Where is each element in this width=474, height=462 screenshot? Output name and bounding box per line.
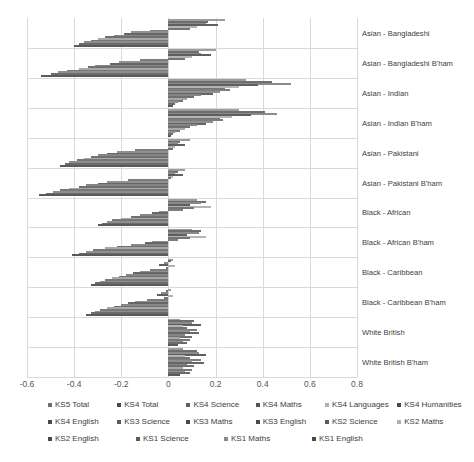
category-group xyxy=(27,227,357,257)
bar xyxy=(168,344,177,346)
legend-swatch-icon xyxy=(117,403,121,407)
x-axis-tick-label: 0 xyxy=(166,379,171,389)
x-axis-tick-label: -0.2 xyxy=(114,379,129,389)
legend-swatch-icon xyxy=(48,420,52,424)
chart-container: -0.6-0.4-0.200.20.40.60.8 Asian - Bangla… xyxy=(0,0,474,462)
category-label: Black - Caribbean B'ham xyxy=(362,298,446,307)
category-axis-labels: Asian - BangladeshiAsian - Bangladeshi B… xyxy=(362,18,474,377)
legend-label: KS4 English xyxy=(55,417,99,426)
bar xyxy=(41,75,168,77)
legend-item[interactable]: KS5 Total xyxy=(48,400,117,409)
category-label: Asian - Indian xyxy=(362,88,408,97)
legend-row: KS4 EnglishKS3 ScienceKS3 MathsKS3 Engli… xyxy=(48,413,468,430)
legend-swatch-icon xyxy=(256,403,260,407)
x-axis: -0.6-0.4-0.200.20.40.60.8 xyxy=(27,379,357,393)
legend-swatch-icon xyxy=(325,403,329,407)
x-axis-tick-label: -0.6 xyxy=(20,379,35,389)
category-label: Asian - Pakistani B'ham xyxy=(362,178,442,187)
plot-area xyxy=(27,18,357,377)
legend-label: KS5 Total xyxy=(55,400,89,409)
legend-label: KS4 Languages xyxy=(332,400,389,409)
category-label: Asian - Pakistani xyxy=(362,148,419,157)
bar xyxy=(168,374,180,376)
x-axis-tick-label: 0.2 xyxy=(210,379,222,389)
category-label: Asian - Indian B'ham xyxy=(362,118,432,127)
legend-item[interactable]: KS2 Science xyxy=(325,417,397,426)
bar xyxy=(74,45,168,47)
bar xyxy=(98,224,169,226)
category-group xyxy=(27,18,357,48)
legend-swatch-icon xyxy=(256,420,260,424)
category-group xyxy=(27,48,357,78)
legend-swatch-icon xyxy=(186,420,190,424)
bar xyxy=(168,265,175,267)
bar xyxy=(168,209,182,211)
legend-row: KS2 EnglishKS1 ScienceKS1 MathsKS1 Engli… xyxy=(48,430,468,447)
category-group xyxy=(27,287,357,317)
category-label: Black - African B'ham xyxy=(362,238,434,247)
legend-item[interactable]: KS2 Maths xyxy=(397,417,468,426)
bar xyxy=(168,105,173,107)
category-label: Asian - Bangladeshi B'ham xyxy=(362,58,453,67)
category-group xyxy=(27,78,357,108)
x-axis-tick-label: 0.4 xyxy=(257,379,269,389)
bar xyxy=(168,58,185,60)
legend-item[interactable]: KS4 Maths xyxy=(256,400,325,409)
legend-swatch-icon xyxy=(224,437,228,441)
legend-item[interactable]: KS1 Maths xyxy=(224,434,312,443)
category-group xyxy=(27,347,357,377)
chart-legend: KS5 TotalKS4 TotalKS4 ScienceKS4 MathsKS… xyxy=(48,396,468,447)
legend-item[interactable]: KS4 Science xyxy=(186,400,255,409)
legend-item[interactable]: KS3 Science xyxy=(117,417,186,426)
legend-label: KS1 Science xyxy=(143,434,189,443)
gridline-vertical xyxy=(357,18,358,377)
legend-swatch-icon xyxy=(48,403,52,407)
category-group xyxy=(27,168,357,198)
legend-label: KS3 Science xyxy=(124,417,170,426)
legend-row: KS5 TotalKS4 TotalKS4 ScienceKS4 MathsKS… xyxy=(48,396,468,413)
category-label: Asian - Bangladeshi xyxy=(362,28,430,37)
legend-swatch-icon xyxy=(325,420,329,424)
bar xyxy=(168,28,189,30)
legend-item[interactable]: KS3 Maths xyxy=(186,417,255,426)
legend-swatch-icon xyxy=(136,437,140,441)
legend-label: KS3 English xyxy=(263,417,307,426)
legend-swatch-icon xyxy=(48,437,52,441)
category-label: White British B'ham xyxy=(362,358,428,367)
legend-swatch-icon xyxy=(186,403,190,407)
legend-item[interactable]: KS2 English xyxy=(48,434,136,443)
bar xyxy=(168,260,170,262)
legend-item[interactable]: KS1 English xyxy=(312,434,400,443)
bar xyxy=(157,294,169,296)
bar xyxy=(60,165,168,167)
legend-label: KS2 Science xyxy=(332,417,378,426)
bar xyxy=(159,264,168,266)
bar xyxy=(86,314,169,316)
legend-label: KS4 Science xyxy=(193,400,239,409)
x-axis-tick-label: -0.4 xyxy=(67,379,82,389)
category-label: White British xyxy=(362,328,405,337)
legend-item[interactable]: KS4 Languages xyxy=(325,400,397,409)
category-label: Black - Caribbean xyxy=(362,268,422,277)
x-axis-tick-label: 0.6 xyxy=(304,379,316,389)
legend-swatch-icon xyxy=(312,437,316,441)
legend-item[interactable]: KS4 Humanities xyxy=(397,400,468,409)
bar xyxy=(168,135,170,137)
category-group xyxy=(27,138,357,168)
legend-item[interactable]: KS4 Total xyxy=(117,400,186,409)
legend-label: KS4 Total xyxy=(124,400,158,409)
legend-item[interactable]: KS1 Science xyxy=(136,434,224,443)
legend-swatch-icon xyxy=(117,420,121,424)
legend-item[interactable]: KS3 English xyxy=(256,417,325,426)
bar xyxy=(91,284,169,286)
bar xyxy=(168,177,170,179)
bar xyxy=(168,289,170,291)
bar xyxy=(72,254,169,256)
legend-label: KS3 Maths xyxy=(193,417,232,426)
legend-item[interactable]: KS4 English xyxy=(48,417,117,426)
category-group xyxy=(27,257,357,287)
bar xyxy=(168,239,177,241)
gridline-horizontal xyxy=(27,377,357,378)
legend-label: KS4 Humanities xyxy=(404,400,461,409)
legend-label: KS1 English xyxy=(319,434,363,443)
